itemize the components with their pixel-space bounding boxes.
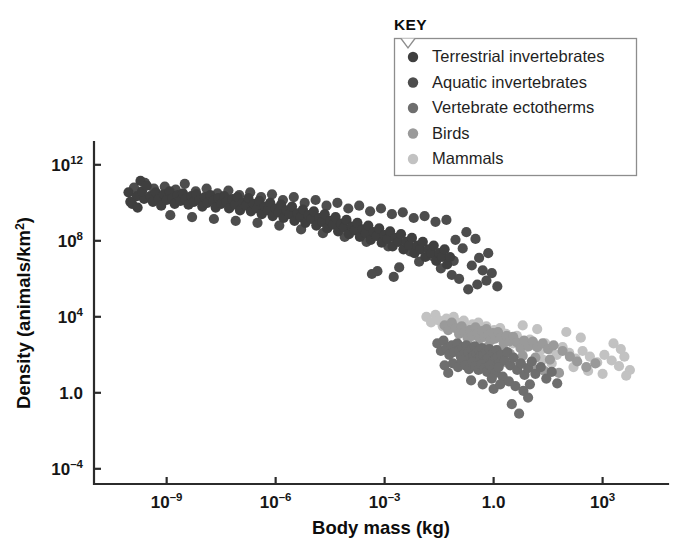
data-point <box>321 201 331 211</box>
data-point <box>545 355 555 365</box>
data-point <box>142 181 152 191</box>
data-point <box>289 192 299 202</box>
data-point <box>487 374 497 384</box>
data-point <box>598 369 608 379</box>
data-point <box>518 320 528 330</box>
data-point <box>495 379 505 389</box>
legend-label-mammals: Mammals <box>432 149 504 167</box>
data-point <box>492 281 502 291</box>
tick-label: 1.0 <box>482 493 506 512</box>
data-point <box>621 371 631 381</box>
data-point <box>430 217 440 227</box>
tick-label: 10–6 <box>260 491 292 512</box>
data-point <box>441 215 451 225</box>
data-point <box>267 189 277 199</box>
data-point <box>616 344 626 354</box>
data-point <box>523 393 533 403</box>
data-point <box>549 340 559 350</box>
legend-label-birds: Birds <box>432 124 470 142</box>
tick-label: 10–4 <box>51 458 83 479</box>
data-point <box>470 234 480 244</box>
data-point <box>547 367 557 377</box>
data-point <box>133 203 143 213</box>
figure-container: 10–910–610–31.0103 10121081041.010–4 Bod… <box>0 0 674 550</box>
data-point <box>409 213 419 223</box>
data-point <box>478 379 488 389</box>
data-point <box>376 203 386 213</box>
data-point <box>367 269 377 279</box>
data-point <box>478 265 488 275</box>
data-point <box>472 279 482 289</box>
legend-label-aquatic-invertebrates: Aquatic invertebrates <box>432 73 587 91</box>
data-point <box>467 260 477 270</box>
data-point <box>581 362 591 372</box>
data-point <box>552 378 562 388</box>
data-point <box>572 356 582 366</box>
data-point <box>614 361 624 371</box>
data-point <box>180 179 190 189</box>
legend: KEY Terrestrial invertebratesAquatic inv… <box>394 16 637 176</box>
data-point <box>527 356 537 366</box>
data-point <box>440 360 450 370</box>
legend-marker-birds <box>408 128 418 138</box>
data-point <box>332 198 342 208</box>
data-point <box>576 333 586 343</box>
data-point <box>461 227 471 237</box>
legend-marker-terrestrial-invertebrates <box>408 52 418 62</box>
data-point <box>474 253 484 263</box>
data-point <box>231 216 241 226</box>
data-point <box>445 252 455 262</box>
tick-label: 1.0 <box>59 384 83 403</box>
x-axis-tick-labels: 10–910–610–31.0103 <box>151 491 615 512</box>
data-point <box>354 201 364 211</box>
legend-label-terrestrial-invertebrates: Terrestrial invertebrates <box>432 47 604 65</box>
data-point <box>487 268 497 278</box>
tick-label: 108 <box>58 230 84 251</box>
data-point <box>590 358 600 368</box>
svg-text:Density (animals/km2): Density (animals/km2) <box>13 217 34 409</box>
data-point <box>387 209 397 219</box>
legend-marker-mammals <box>408 154 418 164</box>
legend-marker-vertebrate-ectotherms <box>408 103 418 113</box>
legend-title: KEY <box>394 16 427 33</box>
data-point <box>525 379 535 389</box>
data-point <box>389 272 399 282</box>
tick-label: 104 <box>58 306 84 327</box>
x-axis-title: Body mass (kg) <box>312 517 450 538</box>
data-point <box>507 399 517 409</box>
data-point <box>365 206 375 216</box>
data-point <box>165 210 175 220</box>
series-terrestrial-invertebrates <box>123 176 455 270</box>
data-point <box>420 211 430 221</box>
data-point <box>450 235 460 245</box>
data-point <box>343 203 353 213</box>
data-points-layer <box>123 176 635 419</box>
data-point <box>187 212 197 222</box>
y-axis-title: Density (animals/km2) <box>13 217 34 409</box>
data-point <box>561 327 571 337</box>
data-point <box>209 214 219 224</box>
data-point <box>466 375 476 385</box>
data-point <box>394 262 404 272</box>
data-point <box>514 409 524 419</box>
tick-label: 10–9 <box>151 491 183 512</box>
data-point <box>536 362 546 372</box>
data-point <box>483 248 493 258</box>
y-axis-tick-labels: 10121081041.010–4 <box>51 154 83 479</box>
scatter-plot: 10–910–610–31.0103 10121081041.010–4 Bod… <box>0 0 674 550</box>
data-point <box>532 324 542 334</box>
data-point <box>454 274 464 284</box>
data-point <box>463 284 473 294</box>
legend-label-vertebrate-ectotherms: Vertebrate ectotherms <box>432 98 594 116</box>
legend-marker-aquatic-invertebrates <box>408 77 418 87</box>
data-point <box>398 207 408 217</box>
data-point <box>458 243 468 253</box>
tick-label: 10–3 <box>369 491 401 512</box>
data-point <box>311 195 321 205</box>
tick-label: 103 <box>590 491 615 512</box>
tick-label: 1012 <box>51 154 83 175</box>
